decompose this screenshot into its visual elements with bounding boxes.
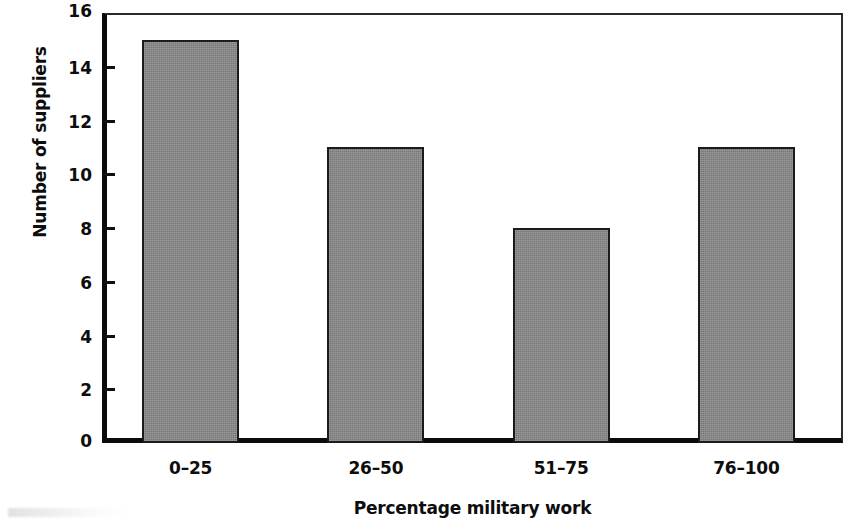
bars-layer [0,0,855,525]
x-axis-tick-label: 0–25 [111,458,271,478]
bar [513,228,610,443]
x-axis-title: Percentage military work [102,498,843,518]
bar-chart-figure: Number of suppliers 1614121086420 0–2526… [0,0,855,525]
scan-artifact-smudge [8,508,128,517]
x-axis-tick-label: 51–75 [481,458,641,478]
bar [698,147,795,443]
bar [142,40,239,443]
x-axis-tick-label: 76–100 [666,458,826,478]
x-axis-tick-label: 26–50 [296,458,456,478]
bar [327,147,424,443]
